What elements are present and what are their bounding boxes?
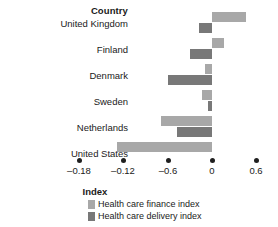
bar-delivery [190,49,212,59]
axis-tick-label: –0.12 [103,165,143,176]
category-label: Netherlands [0,122,128,133]
legend-swatch-icon [88,212,95,221]
legend-item: Health care delivery index [88,211,202,222]
bar-finance [202,90,212,100]
bar-delivery [199,23,212,33]
bar-finance [212,12,246,22]
bar-finance [212,38,224,48]
axis-title: Index [0,186,190,197]
bar-delivery [177,127,212,137]
axis-tick-label: –0.18 [59,165,99,176]
bar-delivery [168,75,212,85]
legend-swatch-icon [88,200,95,209]
bar-finance [205,64,212,74]
category-label: United Kingdom [0,18,128,29]
category-label: Finland [0,44,128,55]
legend-label: Health care finance index [98,199,200,210]
bar-delivery [208,101,212,111]
axis-tick-label: 0 [192,165,232,176]
bar-finance [117,142,212,152]
axis-tick-marker [210,158,215,163]
value-axis: –0.18–0.12–0.600.6 [0,155,278,185]
legend-label: Health care delivery index [98,211,202,222]
category-label: Sweden [0,96,128,107]
legend: Health care finance indexHealth care del… [88,199,202,223]
axis-tick-marker [166,158,171,163]
horizontal-bar-chart: Country –0.18–0.12–0.600.6 Index Health … [0,0,278,227]
bar-finance [161,116,212,126]
plot-area [0,10,278,160]
axis-tick-marker [254,158,259,163]
category-label: United States [0,148,128,159]
axis-tick-label: 0.6 [236,165,276,176]
category-label: Denmark [0,70,128,81]
axis-tick-label: –0.6 [148,165,188,176]
legend-item: Health care finance index [88,199,202,210]
